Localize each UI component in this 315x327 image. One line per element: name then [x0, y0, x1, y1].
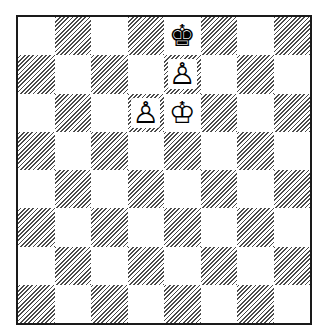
square-c8[interactable]	[91, 17, 128, 55]
square-h7[interactable]	[274, 55, 311, 93]
square-f2[interactable]	[201, 247, 238, 285]
square-e2[interactable]	[164, 247, 201, 285]
square-f5[interactable]	[201, 132, 238, 170]
square-b4[interactable]	[55, 170, 92, 208]
square-a6[interactable]	[18, 94, 55, 132]
square-g8[interactable]	[237, 17, 274, 55]
square-h5[interactable]	[274, 132, 311, 170]
square-h1[interactable]	[274, 285, 311, 323]
square-b2[interactable]	[55, 247, 92, 285]
square-b7[interactable]	[55, 55, 92, 93]
square-d3[interactable]	[128, 208, 165, 246]
square-b3[interactable]	[55, 208, 92, 246]
square-c1[interactable]	[91, 285, 128, 323]
square-f8[interactable]	[201, 17, 238, 55]
square-a8[interactable]	[18, 17, 55, 55]
square-g2[interactable]	[237, 247, 274, 285]
square-a7[interactable]	[18, 55, 55, 93]
square-g5[interactable]	[237, 132, 274, 170]
square-a2[interactable]	[18, 247, 55, 285]
square-h2[interactable]	[274, 247, 311, 285]
square-e8[interactable]: ♚	[164, 17, 201, 55]
square-e7[interactable]: ♙	[164, 55, 201, 93]
square-b5[interactable]	[55, 132, 92, 170]
white-king-icon[interactable]: ♔	[168, 98, 197, 128]
square-e3[interactable]	[164, 208, 201, 246]
chess-board: ♚♙♙♔	[18, 17, 310, 323]
square-g7[interactable]	[237, 55, 274, 93]
square-e5[interactable]	[164, 132, 201, 170]
white-pawn-icon[interactable]: ♙	[131, 98, 160, 128]
square-g4[interactable]	[237, 170, 274, 208]
square-a4[interactable]	[18, 170, 55, 208]
square-g1[interactable]	[237, 285, 274, 323]
chess-board-frame: ♚♙♙♔	[16, 15, 312, 325]
square-b8[interactable]	[55, 17, 92, 55]
square-d2[interactable]	[128, 247, 165, 285]
square-d1[interactable]	[128, 285, 165, 323]
square-d5[interactable]	[128, 132, 165, 170]
square-f3[interactable]	[201, 208, 238, 246]
square-h8[interactable]	[274, 17, 311, 55]
square-d7[interactable]	[128, 55, 165, 93]
square-h3[interactable]	[274, 208, 311, 246]
square-f6[interactable]	[201, 94, 238, 132]
square-c2[interactable]	[91, 247, 128, 285]
square-e1[interactable]	[164, 285, 201, 323]
square-d4[interactable]	[128, 170, 165, 208]
square-a1[interactable]	[18, 285, 55, 323]
square-g6[interactable]	[237, 94, 274, 132]
square-c3[interactable]	[91, 208, 128, 246]
square-a3[interactable]	[18, 208, 55, 246]
square-c6[interactable]	[91, 94, 128, 132]
square-e6[interactable]: ♔	[164, 94, 201, 132]
white-pawn-icon[interactable]: ♙	[168, 59, 197, 89]
square-c4[interactable]	[91, 170, 128, 208]
square-h6[interactable]	[274, 94, 311, 132]
square-f4[interactable]	[201, 170, 238, 208]
square-h4[interactable]	[274, 170, 311, 208]
square-g3[interactable]	[237, 208, 274, 246]
square-d8[interactable]	[128, 17, 165, 55]
square-e4[interactable]	[164, 170, 201, 208]
square-b6[interactable]	[55, 94, 92, 132]
square-f7[interactable]	[201, 55, 238, 93]
square-b1[interactable]	[55, 285, 92, 323]
black-king-icon[interactable]: ♚	[168, 21, 197, 51]
square-f1[interactable]	[201, 285, 238, 323]
square-d6[interactable]: ♙	[128, 94, 165, 132]
square-a5[interactable]	[18, 132, 55, 170]
square-c5[interactable]	[91, 132, 128, 170]
square-c7[interactable]	[91, 55, 128, 93]
